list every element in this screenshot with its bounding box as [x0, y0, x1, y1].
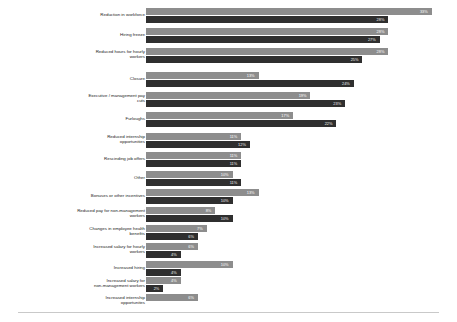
- category-label: Closure: [25, 76, 145, 81]
- axis-baseline: [18, 312, 439, 313]
- bar-value-label: 7%: [197, 225, 203, 232]
- bar-value-label: 10%: [221, 197, 229, 204]
- bar-series-2: 4%: [146, 269, 181, 276]
- bar-series-1: 6%: [146, 243, 198, 250]
- bar-value-label: 23%: [333, 100, 341, 107]
- bar-series-1: 11%: [146, 133, 241, 140]
- bar-group: 28%27%: [146, 28, 388, 44]
- bar-value-label: 28%: [377, 28, 385, 35]
- bar-value-label: 6%: [188, 294, 194, 301]
- bar-group: 11%11%: [146, 152, 241, 168]
- bar-series-1: 28%: [146, 48, 388, 55]
- bar-group: 8%10%: [146, 207, 233, 223]
- bar-value-label: 11%: [230, 160, 238, 167]
- bar-group: 19%23%: [146, 92, 345, 108]
- bar-chart: Reduction in workforce33%28%Hiring freez…: [0, 0, 457, 322]
- bar-value-label: 12%: [238, 141, 246, 148]
- category-label: Reduced pay for non-management workers: [25, 208, 145, 218]
- bar-series-1: 8%: [146, 207, 215, 214]
- bar-series-2: 6%: [146, 233, 198, 240]
- bar-series-2: 4%: [146, 251, 181, 258]
- category-label: Increased internship opportunites: [25, 295, 145, 305]
- bar-series-1: 7%: [146, 225, 207, 232]
- category-label: Increased salary for non-management work…: [25, 278, 145, 288]
- bar-series-2: 11%: [146, 160, 241, 167]
- category-label: Bonuses or other incentives: [25, 193, 145, 198]
- bar-value-label: 2%: [154, 285, 160, 292]
- bar-series-1: 11%: [146, 152, 241, 159]
- bar-value-label: 27%: [368, 36, 376, 43]
- bar-group: 7%6%: [146, 225, 207, 241]
- bar-group: 4%2%: [146, 277, 181, 293]
- bar-value-label: 11%: [230, 133, 238, 140]
- bar-series-2: 28%: [146, 16, 388, 23]
- bar-series-1: 13%: [146, 72, 259, 79]
- bar-value-label: 28%: [377, 48, 385, 55]
- bar-series-2: 23%: [146, 100, 345, 107]
- bar-value-label: 24%: [342, 80, 350, 87]
- bar-series-2: 24%: [146, 80, 354, 87]
- category-label: Executive / management pay cuts: [25, 93, 145, 103]
- category-label: Changes in employee health benefits: [25, 226, 145, 236]
- bar-value-label: 4%: [171, 277, 177, 284]
- category-label: Reduced hours for hourly workers: [25, 49, 145, 59]
- bar-group: 13%24%: [146, 72, 354, 88]
- bar-value-label: 11%: [230, 152, 238, 159]
- bar-group: 6%4%: [146, 243, 198, 259]
- bar-value-label: 10%: [221, 171, 229, 178]
- category-label: Furloughs: [25, 116, 145, 121]
- bar-value-label: 28%: [377, 16, 385, 23]
- bar-group: 17%22%: [146, 112, 336, 128]
- bar-series-2: 10%: [146, 197, 233, 204]
- category-label: Reduction in workforce: [25, 12, 145, 17]
- bar-series-2: 11%: [146, 179, 241, 186]
- bar-series-1: 10%: [146, 171, 233, 178]
- bar-series-2: 25%: [146, 56, 362, 63]
- bar-value-label: 4%: [171, 251, 177, 258]
- bar-group: 6%: [146, 294, 198, 302]
- bar-value-label: 4%: [171, 269, 177, 276]
- bar-group: 11%12%: [146, 133, 250, 149]
- bar-series-2: 10%: [146, 215, 233, 222]
- bar-series-1: 4%: [146, 277, 181, 284]
- bar-series-1: 33%: [146, 8, 432, 15]
- bar-value-label: 13%: [247, 189, 255, 196]
- bar-series-1: 13%: [146, 189, 259, 196]
- bar-value-label: 17%: [281, 112, 289, 119]
- bar-group: 10%11%: [146, 171, 241, 187]
- bar-group: 28%25%: [146, 48, 388, 64]
- category-label: Hiring freeze: [25, 32, 145, 37]
- bar-value-label: 6%: [188, 233, 194, 240]
- bar-group: 33%28%: [146, 8, 432, 24]
- bar-value-label: 10%: [221, 261, 229, 268]
- bar-value-label: 33%: [420, 8, 428, 15]
- bar-value-label: 19%: [299, 92, 307, 99]
- bar-value-label: 10%: [221, 215, 229, 222]
- bar-group: 10%4%: [146, 261, 233, 277]
- bar-value-label: 11%: [230, 179, 238, 186]
- bar-series-1: 10%: [146, 261, 233, 268]
- bar-series-2: 27%: [146, 36, 380, 43]
- bar-value-label: 6%: [188, 243, 194, 250]
- bar-value-label: 22%: [325, 120, 333, 127]
- bar-group: 13%10%: [146, 189, 259, 205]
- bar-value-label: 13%: [247, 72, 255, 79]
- category-label: Increased hiring: [25, 265, 145, 270]
- category-label: Rescinding job offers: [25, 156, 145, 161]
- category-label: Other: [25, 175, 145, 180]
- bar-series-1: 17%: [146, 112, 293, 119]
- category-label: Reduced internship opportunities: [25, 134, 145, 144]
- category-label: Increased salary for hourly workers: [25, 244, 145, 254]
- bar-series-2: 12%: [146, 141, 250, 148]
- bar-series-1: 19%: [146, 92, 310, 99]
- bar-series-1: 28%: [146, 28, 388, 35]
- bar-value-label: 25%: [351, 56, 359, 63]
- bar-series-2: 22%: [146, 120, 336, 127]
- bar-series-2: 2%: [146, 285, 163, 292]
- bar-series-1: 6%: [146, 294, 198, 301]
- bar-value-label: 8%: [206, 207, 212, 214]
- plot-area: Reduction in workforce33%28%Hiring freez…: [0, 0, 457, 322]
